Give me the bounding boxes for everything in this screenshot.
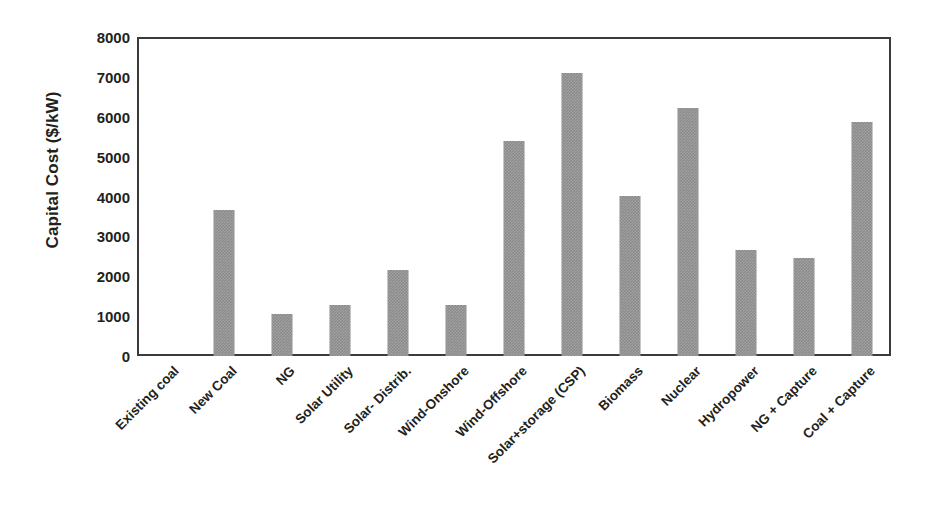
bar-slot <box>311 37 369 356</box>
y-axis-tick-labels: 800070006000500040003000200010000 <box>72 0 130 511</box>
y-axis-title: Capital Cost ($/kW) <box>43 5 63 335</box>
bar-slot <box>717 37 775 356</box>
y-axis-tick-label: 1000 <box>74 309 130 324</box>
bar[interactable] <box>794 258 815 356</box>
bar-slot <box>253 37 311 356</box>
y-axis-tick-label: 8000 <box>74 30 130 45</box>
bar[interactable] <box>736 250 757 356</box>
x-axis-category-label-text: Nuclear <box>659 364 704 409</box>
x-axis-category-labels: Existing coalNew CoalNGSolar UtilitySola… <box>137 356 891 511</box>
bar[interactable] <box>678 108 699 356</box>
x-axis-category-label-text: Biomass <box>596 364 645 413</box>
x-axis-category-label-text: NG <box>274 364 298 388</box>
y-axis-tick-label: 0 <box>74 349 130 364</box>
x-axis-category-label-text: Solar Utility <box>293 364 356 427</box>
y-axis-tick-label: 6000 <box>74 109 130 124</box>
capital-cost-bar-chart: Capital Cost ($/kW) 80007000600050004000… <box>0 0 928 511</box>
x-axis-category-label-text: New Coal <box>187 364 240 417</box>
bar-slot <box>369 37 427 356</box>
bars-layer <box>137 37 891 356</box>
bar-slot <box>775 37 833 356</box>
bar-slot <box>833 37 891 356</box>
bar-slot <box>137 37 195 356</box>
y-axis-tick-label: 5000 <box>74 149 130 164</box>
y-axis-tick-label: 3000 <box>74 229 130 244</box>
bar-slot <box>427 37 485 356</box>
bar-slot <box>659 37 717 356</box>
bar[interactable] <box>330 305 351 356</box>
x-axis-category-label-text: Solar+storage (CSP) <box>485 364 587 466</box>
y-axis-tick-label: 4000 <box>74 189 130 204</box>
y-axis-tick-label: 2000 <box>74 269 130 284</box>
y-axis-tick-label: 7000 <box>74 69 130 84</box>
bar-slot <box>195 37 253 356</box>
